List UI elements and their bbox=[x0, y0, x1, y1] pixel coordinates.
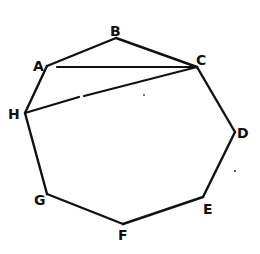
label-b: B bbox=[110, 23, 121, 39]
diagonal-h-c-segment-2 bbox=[84, 67, 197, 96]
label-e: E bbox=[203, 201, 213, 217]
octagon-diagram: A B C D E F G H bbox=[0, 0, 260, 254]
speck-dot bbox=[143, 94, 145, 96]
edge-d-e bbox=[203, 132, 235, 197]
edge-a-b bbox=[47, 38, 116, 66]
vertex-labels: A B C D E F G H bbox=[8, 23, 249, 243]
label-a: A bbox=[33, 58, 44, 74]
edge-e-f bbox=[123, 197, 203, 224]
edge-b-c bbox=[116, 38, 197, 67]
edge-c-d bbox=[197, 67, 235, 132]
diagram-svg: A B C D E F G H bbox=[0, 0, 260, 254]
diagonals bbox=[25, 67, 197, 113]
edge-f-g bbox=[47, 194, 123, 224]
label-d: D bbox=[237, 125, 249, 141]
speck-dot bbox=[234, 170, 236, 172]
label-c: C bbox=[196, 52, 206, 68]
edge-g-h bbox=[25, 113, 47, 194]
label-g: G bbox=[34, 192, 46, 208]
diagonal-h-c-segment-1 bbox=[25, 97, 79, 113]
label-h: H bbox=[8, 106, 20, 122]
label-f: F bbox=[118, 227, 128, 243]
